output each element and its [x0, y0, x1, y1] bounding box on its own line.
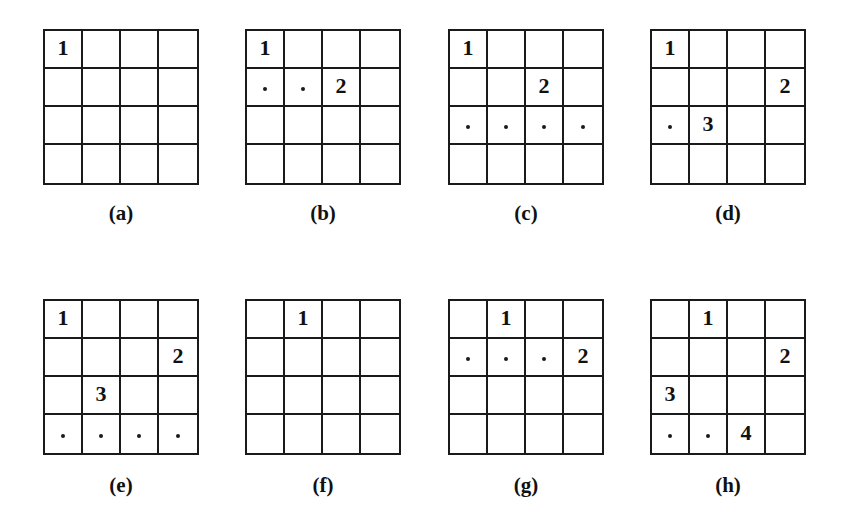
board-cell [323, 415, 361, 453]
board-cell [690, 415, 728, 453]
board-cell: 2 [159, 339, 197, 377]
board-cell [728, 107, 766, 145]
attacked-dot-icon [542, 125, 546, 129]
board-cell [323, 301, 361, 339]
board: 12 [245, 29, 401, 185]
board-cell [450, 107, 488, 145]
attacked-dot-icon [466, 125, 470, 129]
queen-number: 1 [260, 37, 271, 59]
board-cell [766, 415, 804, 453]
board-cell [564, 107, 602, 145]
board-cell: 1 [488, 301, 526, 339]
board-cell: 2 [323, 69, 361, 107]
board-cell [652, 415, 690, 453]
board-cell: 3 [652, 377, 690, 415]
queen-number: 1 [703, 307, 714, 329]
board-cell [652, 339, 690, 377]
board-cell [121, 377, 159, 415]
queen-number: 1 [298, 307, 309, 329]
board-cell [450, 377, 488, 415]
queen-number: 2 [173, 345, 184, 367]
panel-h: 1234 [650, 299, 806, 455]
panel-b: 12 [245, 29, 401, 185]
board: 123 [43, 299, 199, 455]
board-cell [488, 145, 526, 183]
board-cell [690, 377, 728, 415]
board-cell [488, 415, 526, 453]
attacked-dot-icon [466, 357, 470, 361]
attacked-dot-icon [301, 87, 305, 91]
board-cell [361, 31, 399, 69]
board: 1 [43, 29, 199, 185]
board-cell [361, 301, 399, 339]
board-cell [45, 339, 83, 377]
board-cell [766, 377, 804, 415]
board-cell [159, 107, 197, 145]
board-cell [45, 107, 83, 145]
board-cell: 3 [83, 377, 121, 415]
queen-number: 1 [501, 307, 512, 329]
board-cell [652, 69, 690, 107]
board-cell [159, 415, 197, 453]
board-cell [450, 339, 488, 377]
attacked-dot-icon [542, 357, 546, 361]
panel-label-b: (b) [245, 201, 401, 226]
queen-number: 2 [578, 345, 589, 367]
queen-number: 3 [96, 383, 107, 405]
board-cell [526, 301, 564, 339]
attacked-dot-icon [137, 434, 141, 438]
board-cell [285, 415, 323, 453]
queen-number: 2 [780, 75, 791, 97]
panel-label-g: (g) [448, 473, 604, 498]
board-cell [159, 377, 197, 415]
board-cell [526, 107, 564, 145]
board-cell [526, 145, 564, 183]
queen-number: 2 [780, 345, 791, 367]
board-cell [766, 145, 804, 183]
board-cell [488, 339, 526, 377]
queen-number: 3 [665, 383, 676, 405]
board-cell [652, 107, 690, 145]
attacked-dot-icon [176, 434, 180, 438]
attacked-dot-icon [668, 125, 672, 129]
board-cell [247, 339, 285, 377]
queen-number: 2 [336, 75, 347, 97]
board-cell [728, 377, 766, 415]
board-cell [690, 31, 728, 69]
attacked-dot-icon [581, 125, 585, 129]
board-cell: 1 [652, 31, 690, 69]
attacked-dot-icon [263, 87, 267, 91]
board-cell [526, 31, 564, 69]
board-cell [766, 107, 804, 145]
board-cell [361, 145, 399, 183]
board-cell: 1 [450, 31, 488, 69]
board-cell [121, 415, 159, 453]
board: 12 [448, 299, 604, 455]
board-cell [285, 339, 323, 377]
board-cell [450, 301, 488, 339]
panel-d: 123 [650, 29, 806, 185]
board-cell [728, 31, 766, 69]
board-cell [766, 31, 804, 69]
board-cell: 1 [247, 31, 285, 69]
attacked-dot-icon [706, 434, 710, 438]
board: 1 [245, 299, 401, 455]
board-cell [323, 107, 361, 145]
panel-c: 12 [448, 29, 604, 185]
board-cell [728, 301, 766, 339]
board: 1234 [650, 299, 806, 455]
panel-label-d: (d) [650, 201, 806, 226]
board-cell [564, 69, 602, 107]
board-cell: 1 [45, 31, 83, 69]
board-cell [159, 301, 197, 339]
board-cell [361, 107, 399, 145]
board-cell [247, 145, 285, 183]
board-cell [361, 415, 399, 453]
board-cell [121, 339, 159, 377]
board-cell [83, 107, 121, 145]
board-cell [285, 377, 323, 415]
board-cell [83, 69, 121, 107]
queen-number: 1 [58, 307, 69, 329]
board: 123 [650, 29, 806, 185]
queen-number: 4 [741, 422, 752, 444]
